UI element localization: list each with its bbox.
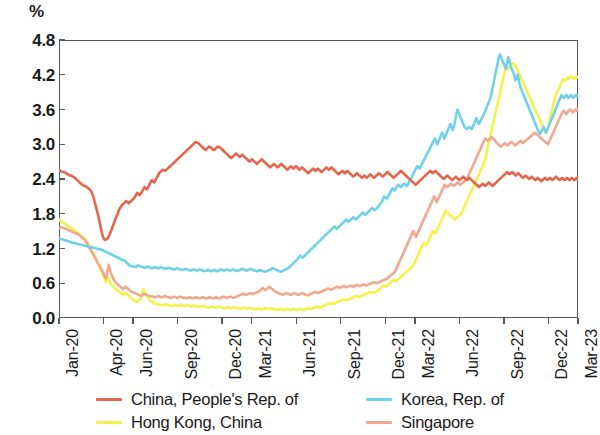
x-tick-label: Sep-22 (510, 329, 526, 379)
x-tick-mark (340, 318, 341, 324)
y-tick-label: 0.6 (3, 275, 55, 292)
y-tick-label: 4.8 (3, 32, 55, 49)
x-tick-label: Dec-21 (391, 329, 407, 379)
y-tick-mark (59, 213, 65, 214)
legend-color-swatch (96, 398, 122, 401)
series-line (59, 63, 578, 310)
legend-item[interactable]: China, People's Rep. of (96, 388, 298, 411)
x-tick-mark (503, 318, 504, 324)
x-tick-mark (251, 318, 252, 324)
x-tick-mark (103, 318, 104, 324)
legend-label: China, People's Rep. of (131, 391, 298, 408)
x-tick-mark (577, 318, 578, 324)
x-tick-label: Mar-22 (421, 329, 437, 378)
y-tick-mark (59, 178, 65, 179)
legend-label: Korea, Rep. of (401, 391, 504, 408)
y-tick-label: 0.0 (3, 310, 55, 327)
x-tick-label: Dec-22 (554, 329, 570, 379)
x-tick-mark (221, 318, 222, 324)
chart-lines-svg (59, 40, 578, 318)
x-tick-mark (548, 318, 549, 324)
legend-label: Singapore (401, 414, 474, 431)
series-line (59, 110, 578, 299)
x-tick-label: Jan-20 (65, 329, 81, 377)
x-tick-label: Jun-21 (302, 329, 318, 377)
y-axis-tick-labels: 0.00.61.21.82.43.03.64.24.8 (0, 0, 55, 435)
x-tick-label: Mar-23 (584, 329, 600, 378)
x-tick-label: Sep-20 (184, 329, 200, 379)
y-tick-mark (59, 74, 65, 75)
y-tick-mark (59, 39, 65, 40)
x-tick-label: Jun-22 (465, 329, 481, 377)
chart-legend: China, People's Rep. ofKorea, Rep. ofHon… (96, 388, 566, 434)
x-tick-label: Mar-21 (258, 329, 274, 378)
legend-color-swatch (366, 398, 392, 401)
y-tick-label: 4.2 (3, 66, 55, 83)
legend-color-swatch (96, 421, 122, 424)
y-tick-label: 3.6 (3, 101, 55, 118)
y-tick-mark (59, 144, 65, 145)
x-tick-mark (296, 318, 297, 324)
y-tick-mark (59, 248, 65, 249)
x-tick-mark (177, 318, 178, 324)
y-tick-label: 3.0 (3, 136, 55, 153)
legend-color-swatch (366, 421, 392, 424)
x-tick-label: Jun-20 (139, 329, 155, 377)
y-tick-label: 1.8 (3, 205, 55, 222)
legend-label: Hong Kong, China (131, 414, 262, 431)
legend-item[interactable]: Singapore (366, 411, 474, 434)
y-tick-mark (59, 109, 65, 110)
y-tick-label: 1.2 (3, 240, 55, 257)
x-tick-mark (385, 318, 386, 324)
x-tick-mark (414, 318, 415, 324)
legend-item[interactable]: Hong Kong, China (96, 411, 262, 434)
x-tick-label: Apr-20 (109, 329, 125, 376)
x-tick-mark (459, 318, 460, 324)
y-tick-mark (59, 283, 65, 284)
x-tick-mark (58, 318, 59, 324)
y-tick-label: 2.4 (3, 171, 55, 188)
legend-item[interactable]: Korea, Rep. of (366, 388, 504, 411)
x-tick-label: Dec-20 (228, 329, 244, 379)
x-tick-mark (132, 318, 133, 324)
series-line (59, 142, 578, 240)
x-tick-label: Sep-21 (347, 329, 363, 379)
